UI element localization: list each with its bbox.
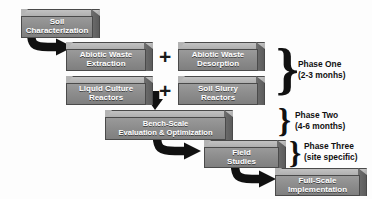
box-front-face: Abiotic Waste Desorption <box>178 49 258 71</box>
box-label-line2: Desorption <box>197 60 239 69</box>
box-front-face: Full-Scale Implementation <box>275 175 360 196</box>
box-bench-scale-evaluation: Bench-Scale Evaluation & Optimization <box>105 110 233 140</box>
box-front-face: Liquid Culture Reactors <box>66 83 146 105</box>
box-liquid-culture-reactors: Liquid Culture Reactors <box>66 76 153 105</box>
plus-operator-bottom: + <box>159 80 171 101</box>
phase-one-name: Phase One <box>298 59 345 70</box>
box-front-face: Soil Characterization <box>21 16 93 38</box>
box-front-face: Field Studies <box>204 147 279 168</box>
box-abiotic-waste-extraction: Abiotic Waste Extraction <box>66 42 153 71</box>
flow-diagram: Soil Characterization Abiotic Waste Extr… <box>0 0 372 199</box>
phase-two-label: Phase Two (4-6 months) <box>295 110 345 132</box>
box-label-line2: Reactors <box>89 94 123 103</box>
phase-three-label: Phase Three (site specific) <box>304 141 358 163</box>
brace-phase-two: } <box>278 105 291 138</box>
phase-one-duration: (2-3 monhs) <box>298 70 345 81</box>
box-soil-characterization: Soil Characterization <box>21 9 100 38</box>
phase-one-label: Phase One (2-3 monhs) <box>298 59 345 81</box>
phase-three-duration: (site specific) <box>304 152 358 163</box>
box-abiotic-waste-desorption: Abiotic Waste Desorption <box>178 42 265 71</box>
plus-operator-top: + <box>159 46 171 67</box>
box-label-line2: Characterization <box>26 27 89 36</box>
box-front-face: Soil Slurry Reactors <box>178 83 258 105</box>
box-label-line2: Studies <box>227 158 256 167</box>
box-soil-slurry-reactors: Soil Slurry Reactors <box>178 76 265 105</box>
brace-phase-one: } <box>276 40 299 98</box>
box-front-face: Bench-Scale Evaluation & Optimization <box>105 117 226 140</box>
box-front-face: Abiotic Waste Extraction <box>66 49 146 71</box>
box-label-line2: Evaluation & Optimization <box>118 129 212 138</box>
box-field-studies: Field Studies <box>204 140 286 168</box>
phase-two-duration: (4-6 months) <box>295 121 345 132</box>
box-label-line2: Implementation <box>288 186 347 195</box>
phase-two-name: Phase Two <box>295 110 345 121</box>
phase-three-name: Phase Three <box>304 141 358 152</box>
box-label-line2: Extraction <box>86 60 125 69</box>
brace-phase-three: } <box>289 137 301 168</box>
box-full-scale-implementation: Full-Scale Implementation <box>275 168 367 196</box>
box-label-line2: Reactors <box>201 94 235 103</box>
